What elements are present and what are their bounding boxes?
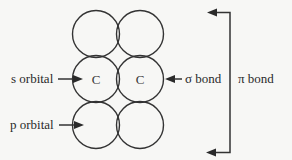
s-orbital-label: s orbital [11,71,54,86]
orbital-top-right [117,11,164,58]
p-orbital-label: p orbital [10,117,54,132]
carbon-atom-right: C [136,72,145,87]
carbon-atom-left: C [92,72,101,87]
p-orbital-arrow-icon [59,121,84,129]
orbital-circles [73,11,164,149]
orbital-bottom-right [117,102,164,149]
carbon-bond-orbital-diagram: C C s orbital p orbital σ bond π bond [0,0,292,160]
s-orbital-arrow-icon [58,75,83,83]
sigma-bond-label: σ bond [185,71,222,86]
pi-bond-label: π bond [238,71,274,86]
sigma-bond-arrow-icon [165,75,182,83]
orbital-top-left [73,11,120,58]
